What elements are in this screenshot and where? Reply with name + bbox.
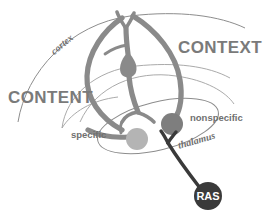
label-specific: specific [71,129,106,140]
apical-dendrite-trunk [126,28,128,54]
specific-nucleus-soma [126,128,148,150]
corticothalamic-loop-right [133,16,181,119]
arbor-right-branch [139,113,154,122]
loop-right-fiber [133,16,181,119]
arbor-left-terminal-stub [120,122,122,133]
label-content: CONTENT [8,88,93,108]
axon-upper-descending [129,76,138,112]
ras-axon-trunk [168,143,200,188]
ras-label: RAS [196,190,219,202]
diagram-canvas: RAS [0,0,263,220]
label-nonspecific: nonspecific [190,112,243,123]
figure-root: RAS CONTENT CONTEXT cortex thalamus spec… [0,0,263,220]
nonspecific-nucleus-soma [161,113,183,135]
label-context: CONTEXT [178,38,262,58]
arbor-left-branch [122,112,138,122]
oblique-dendrite-left [105,45,127,54]
